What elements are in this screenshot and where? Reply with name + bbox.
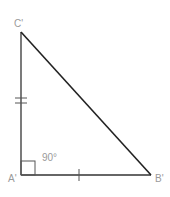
angle-label: 90° — [42, 152, 57, 163]
side-c-b-hypotenuse — [21, 32, 151, 175]
right-angle-marker — [21, 161, 35, 175]
vertex-label-b: B' — [155, 173, 164, 184]
vertex-label-a: A' — [8, 173, 17, 184]
triangle-diagram: C' A' B' 90° — [0, 0, 170, 197]
vertex-label-c: C' — [14, 18, 23, 29]
